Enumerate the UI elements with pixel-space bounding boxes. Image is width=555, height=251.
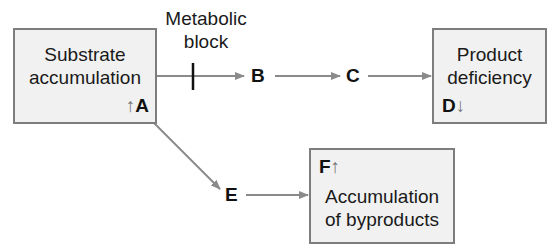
product-title-line1: Product [434, 44, 545, 66]
byproducts-title-line2: of byproducts [311, 209, 453, 231]
down-arrow-icon: ↓ [456, 95, 466, 116]
product-marker: D↓ [442, 96, 465, 116]
metabolic-block-caption-line2: block [160, 31, 252, 53]
byproducts-box: F↑ Accumulation of byproducts [309, 148, 455, 244]
up-arrow-icon: ↑ [331, 156, 341, 177]
label-c: C [346, 66, 360, 86]
label-e: E [225, 185, 238, 205]
label-a: A [135, 95, 149, 116]
up-arrow-icon: ↑ [126, 95, 136, 116]
product-deficiency-box: Product deficiency D↓ [432, 28, 547, 124]
metabolic-block-caption-line1: Metabolic [160, 8, 252, 30]
substrate-accumulation-box: Substrate accumulation ↑A [13, 28, 157, 124]
substrate-title-line1: Substrate [15, 44, 155, 66]
edge-a-to-e [154, 123, 220, 189]
label-f: F [319, 156, 331, 177]
substrate-marker: ↑A [126, 96, 149, 116]
label-b: B [251, 66, 265, 86]
substrate-title-line2: accumulation [15, 67, 155, 89]
byproducts-title-line1: Accumulation [311, 186, 453, 208]
byproducts-marker: F↑ [319, 157, 340, 177]
label-d: D [442, 95, 456, 116]
product-title-line2: deficiency [434, 67, 545, 89]
